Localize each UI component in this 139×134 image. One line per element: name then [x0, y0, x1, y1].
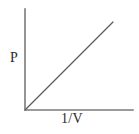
x-axis-label: 1/V	[61, 112, 83, 126]
y-axis-label: P	[10, 51, 18, 65]
data-line	[26, 22, 114, 110]
pressure-vs-inverse-volume-figure: P 1/V	[0, 0, 139, 134]
